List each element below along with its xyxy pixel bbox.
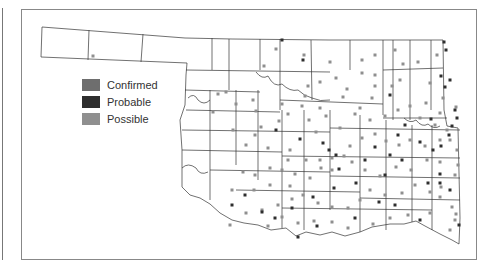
probable-marker (333, 187, 336, 190)
possible-marker (384, 115, 387, 118)
possible-marker (255, 110, 258, 113)
probable-marker (328, 149, 331, 152)
possible-marker (331, 169, 334, 172)
possible-marker (402, 63, 405, 66)
possible-marker (374, 54, 377, 57)
possible-marker (436, 54, 439, 57)
possible-marker (349, 145, 352, 148)
possible-marker (449, 229, 452, 232)
probable-marker (401, 159, 404, 162)
possible-marker (391, 85, 394, 88)
possible-marker (289, 149, 292, 152)
possible-marker (277, 204, 280, 207)
possible-marker (374, 74, 377, 77)
possible-marker (361, 59, 364, 62)
possible-marker (254, 134, 257, 137)
probable-marker (378, 201, 381, 204)
possible-marker (439, 161, 442, 164)
possible-marker (397, 109, 400, 112)
probable-marker (316, 225, 319, 228)
possible-marker (309, 177, 312, 180)
possible-marker (269, 184, 272, 187)
possible-marker (319, 159, 322, 162)
probable-swatch-icon (82, 96, 100, 108)
possible-marker (315, 131, 318, 134)
probable-marker (440, 145, 443, 148)
possible-marker (419, 117, 422, 120)
possible-marker (320, 167, 323, 170)
possible-marker (454, 174, 457, 177)
possible-marker (331, 206, 334, 209)
possible-marker (409, 105, 412, 108)
possible-marker (439, 196, 442, 199)
possible-marker (242, 171, 245, 174)
legend-label: Confirmed (107, 79, 158, 91)
possible-marker (287, 113, 290, 116)
possible-marker (399, 79, 402, 82)
possible-marker (313, 220, 316, 223)
probable-marker (338, 168, 341, 171)
possible-marker (454, 219, 457, 222)
possible-marker (429, 82, 432, 85)
probable-marker (302, 59, 305, 62)
probable-marker (440, 75, 443, 78)
possible-marker (305, 159, 308, 162)
possible-marker (225, 91, 228, 94)
possible-marker (92, 55, 95, 58)
possible-marker (281, 103, 284, 106)
probable-marker (427, 182, 430, 185)
possible-marker (369, 119, 372, 122)
possible-marker (456, 149, 459, 152)
possible-marker (379, 175, 382, 178)
probable-marker (335, 154, 338, 157)
probable-marker (445, 49, 448, 52)
possible-marker (414, 184, 417, 187)
possible-marker (269, 167, 272, 170)
possible-marker (347, 227, 350, 230)
possible-marker (429, 191, 432, 194)
possible-marker (434, 124, 437, 127)
possible-marker (294, 173, 297, 176)
possible-marker (384, 194, 387, 197)
possible-marker (455, 106, 458, 109)
possible-marker (307, 85, 310, 88)
possible-marker (354, 113, 357, 116)
probable-marker (449, 79, 452, 82)
possible-marker (369, 189, 372, 192)
probable-marker (261, 211, 264, 214)
possible-marker (425, 102, 428, 105)
possible-marker (245, 212, 248, 215)
possible-marker (359, 107, 362, 110)
possible-marker (231, 189, 234, 192)
possible-marker (342, 96, 345, 99)
probable-marker (439, 182, 442, 185)
possible-marker (263, 65, 266, 68)
possible-marker (281, 216, 284, 219)
possible-marker (351, 161, 354, 164)
probable-marker (444, 86, 447, 89)
legend-label: Probable (107, 96, 151, 108)
possible-marker (287, 159, 290, 162)
probable-marker (275, 129, 278, 132)
probable-marker (274, 217, 277, 220)
possible-marker (232, 129, 235, 132)
possible-marker (304, 95, 307, 98)
possible-marker (303, 54, 306, 57)
possible-marker (395, 166, 398, 169)
possible-marker (291, 198, 294, 201)
possible-marker (302, 194, 305, 197)
possible-marker (319, 107, 322, 110)
legend-item-probable: Probable (82, 93, 158, 110)
possible-marker (289, 185, 292, 188)
possible-marker (359, 199, 362, 202)
probable-marker (281, 39, 284, 42)
legend-label: Possible (107, 113, 149, 125)
possible-marker (374, 85, 377, 88)
possible-marker (371, 97, 374, 100)
possible-marker (253, 189, 256, 192)
possible-marker (457, 164, 460, 167)
possible-marker (252, 99, 255, 102)
possible-marker (281, 169, 284, 172)
possible-marker (343, 155, 346, 158)
probable-marker (389, 94, 392, 97)
